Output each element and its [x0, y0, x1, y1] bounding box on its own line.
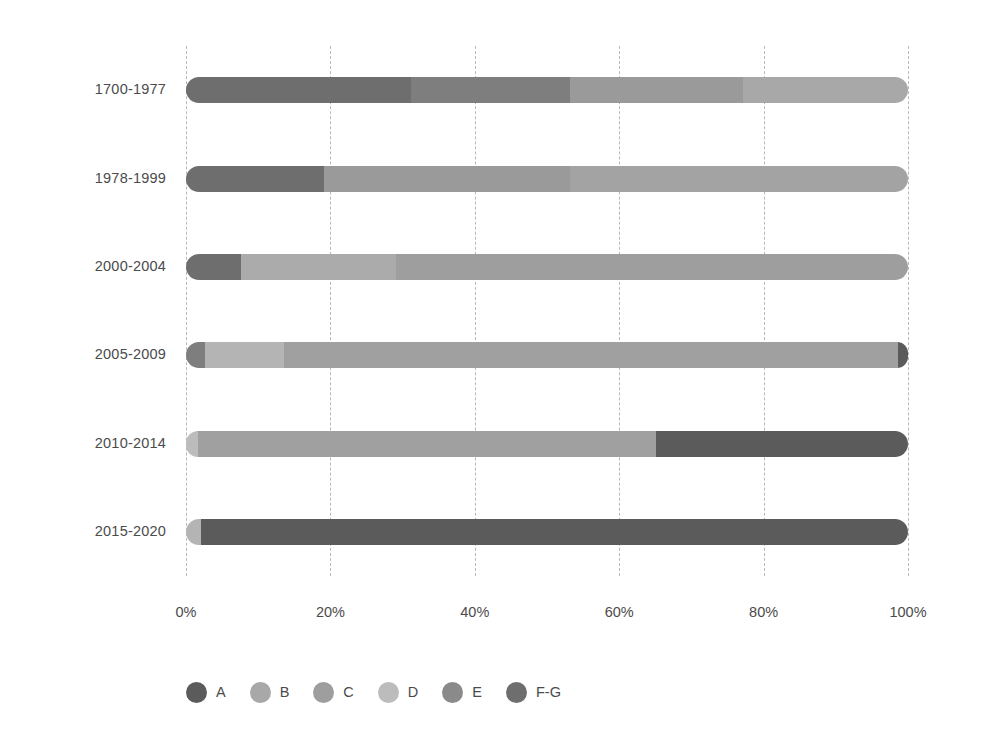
- bar-segment-D: [186, 431, 198, 457]
- bar-track-1700-1977: [186, 77, 908, 103]
- legend-item-E[interactable]: E: [442, 682, 482, 703]
- legend-label-D: D: [408, 684, 418, 700]
- bar-segment-E: [186, 342, 205, 368]
- x-axis-tick-20pct: 20%: [316, 604, 345, 620]
- bar-segment-C: [323, 166, 569, 192]
- bar-segment-C: [395, 254, 908, 280]
- y-axis-label-2005-2009: 2005-2009: [6, 346, 166, 362]
- legend-label-E: E: [472, 684, 482, 700]
- gridline-100pct: [908, 46, 909, 576]
- bar-segment-B: [742, 77, 908, 103]
- legend-label-B: B: [280, 684, 290, 700]
- legend-swatch-E-icon: [442, 682, 463, 703]
- y-axis-label-1700-1977: 1700-1977: [6, 81, 166, 97]
- legend-item-C[interactable]: C: [313, 682, 353, 703]
- bar-segment-E: [410, 77, 570, 103]
- y-axis-label-1978-1999: 1978-1999: [6, 170, 166, 186]
- bar-segment-D: [204, 342, 284, 368]
- legend-item-D[interactable]: D: [378, 682, 418, 703]
- bar-row: [186, 431, 908, 457]
- bar-segment-A: [897, 342, 908, 368]
- bar-row: [186, 342, 908, 368]
- legend-label-F-G: F-G: [536, 684, 561, 700]
- bar-segment-F-G: [186, 166, 324, 192]
- bar-segment-D: [186, 519, 201, 545]
- x-axis-tick-labels: 0%20%40%60%80%100%: [186, 604, 908, 628]
- gridline-0pct: [186, 46, 187, 576]
- chart-canvas: 1700-19771978-19992000-20042005-20092010…: [0, 0, 985, 746]
- legend-swatch-B-icon: [250, 682, 271, 703]
- y-axis-category-labels: 1700-19771978-19992000-20042005-20092010…: [0, 46, 166, 576]
- x-axis-tick-80pct: 80%: [749, 604, 778, 620]
- bar-track-2010-2014: [186, 431, 908, 457]
- bar-segment-A: [200, 519, 908, 545]
- legend-swatch-F-G-icon: [506, 682, 527, 703]
- bar-track-2015-2020: [186, 519, 908, 545]
- plot-area: [186, 46, 908, 576]
- x-axis-tick-60pct: 60%: [605, 604, 634, 620]
- bar-row: [186, 519, 908, 545]
- y-axis-label-2015-2020: 2015-2020: [6, 523, 166, 539]
- legend-item-A[interactable]: A: [186, 682, 226, 703]
- y-axis-label-2000-2004: 2000-2004: [6, 258, 166, 274]
- legend-item-F-G[interactable]: F-G: [506, 682, 561, 703]
- bar-track-1978-1999: [186, 166, 908, 192]
- bar-segment-C: [197, 431, 656, 457]
- x-axis-tick-0pct: 0%: [176, 604, 197, 620]
- gridline-20pct: [330, 46, 331, 576]
- bar-segment-C: [569, 77, 743, 103]
- bar-segment-C: [283, 342, 898, 368]
- bar-track-2005-2009: [186, 342, 908, 368]
- bar-segment-D: [240, 254, 396, 280]
- legend-swatch-A-icon: [186, 682, 207, 703]
- legend-label-C: C: [343, 684, 353, 700]
- bar-segment-A: [655, 431, 908, 457]
- y-axis-label-2010-2014: 2010-2014: [6, 435, 166, 451]
- legend-item-B[interactable]: B: [250, 682, 290, 703]
- bar-segment-F-G: [186, 77, 411, 103]
- bar-row: [186, 166, 908, 192]
- bar-row: [186, 77, 908, 103]
- legend-swatch-D-icon: [378, 682, 399, 703]
- bar-segment-F-G: [186, 254, 241, 280]
- chart-legend: ABCDEF-G: [186, 677, 606, 707]
- legend-swatch-C-icon: [313, 682, 334, 703]
- bar-track-2000-2004: [186, 254, 908, 280]
- bar-row: [186, 254, 908, 280]
- legend-label-A: A: [216, 684, 226, 700]
- gridline-80pct: [764, 46, 765, 576]
- x-axis-tick-40pct: 40%: [460, 604, 489, 620]
- gridline-40pct: [475, 46, 476, 576]
- gridline-60pct: [619, 46, 620, 576]
- x-axis-tick-100pct: 100%: [889, 604, 926, 620]
- bar-segment-B: [569, 166, 908, 192]
